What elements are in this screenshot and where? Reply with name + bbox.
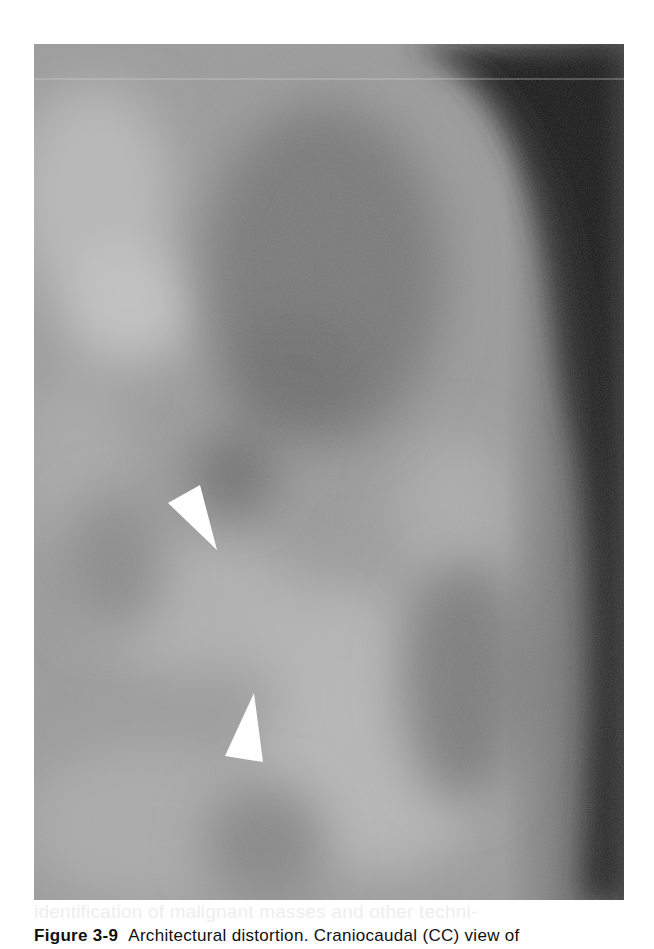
mammogram-image [34, 44, 624, 900]
mammogram-figure [34, 44, 624, 900]
figure-label: Figure 3-9 [34, 926, 118, 945]
figure-caption: Figure 3-9Architectural distortion. Cran… [34, 926, 634, 946]
bleed-through-text: identification of malignant masses and o… [34, 901, 624, 923]
figure-caption-text: Architectural distortion. Craniocaudal (… [128, 926, 519, 945]
